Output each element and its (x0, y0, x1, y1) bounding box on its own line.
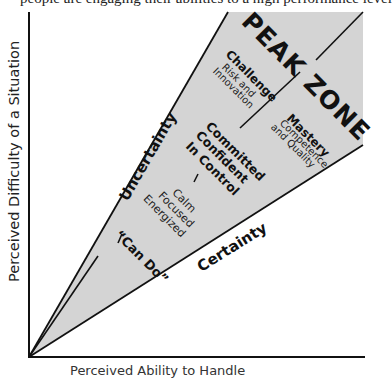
x-axis-label-cutoff: Perceived Ability to Handle (70, 363, 245, 378)
y-axis-label: Perceived Difficulty of a Situation (6, 41, 22, 282)
